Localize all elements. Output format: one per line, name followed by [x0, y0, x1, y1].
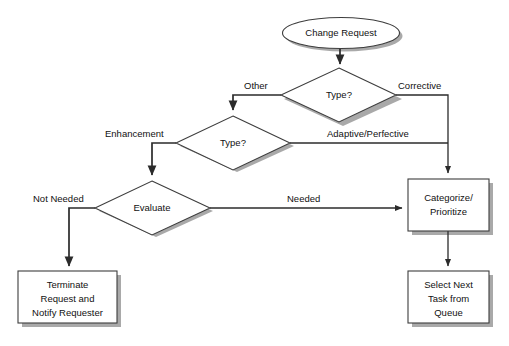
terminate-label-line-1: Terminate	[47, 279, 89, 290]
edge-label-enhancement: Enhancement	[105, 128, 164, 139]
edge-label-corrective: Corrective	[398, 80, 441, 91]
select-next-label-line-1: Select Next	[424, 279, 473, 290]
type-1-label: Type?	[326, 89, 352, 100]
change-request-label: Change Request	[305, 27, 377, 38]
edge-label-needed: Needed	[287, 193, 320, 204]
flowchart-svg: Change Request Type? Type? Evaluate Cate…	[0, 0, 509, 346]
edge-not-needed-to-terminate	[69, 208, 95, 266]
flowchart-canvas: Change Request Type? Type? Evaluate Cate…	[0, 0, 509, 346]
categorize-label-line-1: Categorize/	[424, 192, 473, 203]
evaluate-label: Evaluate	[134, 202, 171, 213]
edge-label-not-needed: Not Needed	[33, 193, 84, 204]
select-next-label-line-2: Task from	[428, 293, 469, 304]
edge-label-adaptive-perfective: Adaptive/Perfective	[327, 128, 409, 139]
edge-other-to-type-2	[233, 95, 281, 110]
terminate-label-line-2: Request and	[41, 293, 95, 304]
edge-enhancement-to-evaluate	[152, 143, 176, 175]
type-2-label: Type?	[220, 137, 246, 148]
select-next-label-line-3: Queue	[434, 307, 463, 318]
categorize-label-line-2: Prioritize	[430, 206, 467, 217]
edge-label-other: Other	[244, 80, 268, 91]
terminate-label-line-3: Notify Requester	[32, 307, 103, 318]
